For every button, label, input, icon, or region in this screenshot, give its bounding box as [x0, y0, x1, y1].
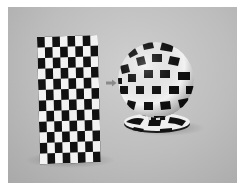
arrow-right-icon: [106, 80, 117, 87]
checker-sphere: [118, 40, 194, 122]
checkerboard-plane: [37, 35, 101, 164]
scene-illustration: [0, 0, 242, 189]
